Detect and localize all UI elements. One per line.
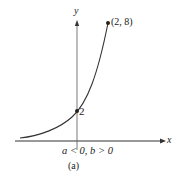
y-axis-arrow-icon — [75, 20, 79, 26]
y-axis-label: y — [74, 5, 78, 16]
point-top-label: (2, 8) — [111, 16, 133, 27]
intercept-label: 2 — [79, 105, 85, 117]
caption: a < 0, b > 0 — [62, 145, 113, 156]
x-axis-arrow-icon — [160, 139, 166, 144]
subcaption: (a) — [68, 160, 79, 171]
x-axis-label: x — [167, 134, 171, 145]
exponential-curve — [20, 23, 108, 138]
point-2-8 — [106, 21, 110, 25]
